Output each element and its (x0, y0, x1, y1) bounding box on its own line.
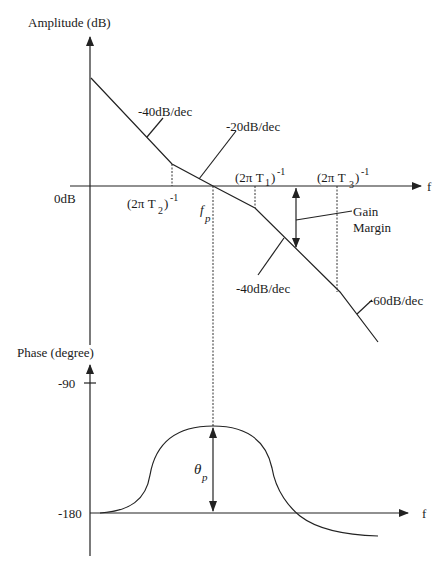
gain-margin-leader (296, 211, 352, 220)
svg-text:(2π T: (2π T (127, 196, 156, 211)
slope4-label: -60dB/dec (369, 293, 423, 308)
slope1-label: -40dB/dec (138, 104, 192, 119)
t1-label: (2π T 1 ) -1 (235, 166, 285, 188)
slope2-leader (199, 131, 236, 179)
slope3-label: -40dB/dec (236, 281, 290, 296)
phase-plot: Phase (degree) -90 f -180 θ p (17, 345, 427, 556)
phase-x-axis-label: f (422, 506, 427, 521)
amplitude-axis-label: Amplitude (dB) (28, 15, 111, 30)
svg-text:1: 1 (265, 177, 270, 188)
bode-diagram: Amplitude (dB) f 0dB -40dB/dec -20dB/dec… (0, 0, 441, 573)
amplitude-x-axis-label: f (427, 179, 432, 194)
svg-text:p: p (201, 471, 208, 483)
gain-margin-label-1: Gain (353, 204, 379, 219)
phase-margin-arrowhead-down (209, 501, 217, 512)
phase-axis-label: Phase (degree) (17, 345, 94, 360)
gain-margin-arrowhead-up (292, 188, 300, 198)
zero-db-label: 0dB (54, 191, 76, 206)
svg-text:θ: θ (194, 461, 202, 477)
svg-text:): ) (271, 170, 275, 185)
t2-label: (2π T 2 ) -1 (127, 192, 178, 216)
svg-text:): ) (164, 196, 168, 211)
svg-text:2: 2 (158, 205, 163, 216)
minus90-label: -90 (58, 376, 75, 391)
svg-text:-1: -1 (361, 166, 369, 177)
slope1-leader (147, 118, 163, 137)
svg-text:3: 3 (349, 179, 354, 190)
svg-text:): ) (355, 170, 359, 185)
minus180-label: -180 (58, 506, 82, 521)
amplitude-plot: Amplitude (dB) f 0dB -40dB/dec -20dB/dec… (28, 15, 432, 426)
svg-text:(2π T: (2π T (317, 170, 346, 185)
crossover-frequency-label: f p (200, 202, 211, 224)
phase-margin-label: θ p (194, 461, 208, 483)
svg-text:-1: -1 (277, 166, 285, 177)
svg-text:p: p (204, 212, 211, 224)
svg-text:-1: -1 (170, 192, 178, 203)
gain-margin-label-2: Margin (353, 220, 392, 235)
phase-margin-arrowhead-up (209, 427, 217, 438)
slope3-leader (258, 238, 284, 275)
phase-curve (100, 426, 378, 536)
slope2-label: -20dB/dec (226, 119, 280, 134)
svg-text:(2π T: (2π T (235, 170, 264, 185)
